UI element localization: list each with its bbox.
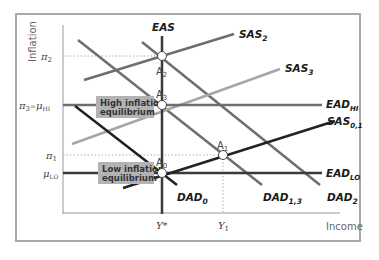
label-sas01: SAS0,1 (327, 115, 363, 130)
label-eas: EAS (152, 21, 175, 33)
label-ead-lo: EADLO (326, 167, 360, 182)
label-sas3: SAS3 (285, 62, 313, 77)
label-dad13: DAD1,3 (263, 191, 302, 206)
x-axis-label: Income (326, 221, 363, 232)
tick-mu-lo: μLO (43, 168, 58, 180)
tick-y1: Y1 (218, 220, 229, 233)
low-callout-line2: equilibrium (102, 173, 157, 183)
tick-pi1: π1 (45, 150, 57, 163)
tick-ystar: Y* (156, 220, 168, 231)
tick-pi2: π2 (40, 51, 52, 64)
label-dad2: DAD2 (327, 191, 358, 206)
label-ead-hi: EADHI (326, 98, 359, 113)
tick-pi3-muhi: π3=μHI (18, 100, 51, 113)
high-inflation-callout: High inflation equilibrium (96, 96, 165, 118)
y-axis-label: Inflation (27, 21, 38, 62)
low-inflation-callout: Low inflation equilibrium (98, 162, 164, 184)
label-sas2: SAS2 (239, 28, 267, 43)
label-dad0: DAD0 (177, 191, 208, 206)
point-a2 (158, 52, 167, 61)
ad-as-diagram: High inflation equilibrium Low inflation… (0, 0, 379, 260)
high-callout-line2: equilibrium (100, 107, 155, 117)
